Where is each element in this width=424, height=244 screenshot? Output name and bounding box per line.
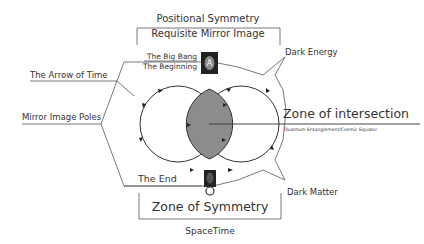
svg-text:A: A — [207, 59, 213, 68]
quantum-entanglement-label: Quantum Entanglement/Cosmic Equator — [284, 127, 377, 132]
spacetime-label: SpaceTime — [185, 226, 235, 236]
zone-of-intersection-label: Zone of intersection — [283, 106, 409, 121]
mirror-image-poles-label: Mirror Image Poles — [22, 112, 102, 122]
the-beginning-label: The Beginning — [142, 62, 197, 71]
omega-card-icon — [204, 170, 216, 195]
dark-energy-label: Dark Energy — [285, 47, 338, 57]
the-end-label: The End — [137, 173, 177, 184]
big-bang-label: The Big Bang — [146, 52, 197, 61]
dark-matter-label: Dark Matter — [287, 187, 338, 197]
zone-of-symmetry-label: Zone of Symmetry — [152, 199, 269, 214]
positional-symmetry-label: Positional Symmetry — [157, 13, 260, 24]
requisite-mirror-image-label: Requisite Mirror Image — [151, 28, 264, 39]
arrow-of-time-label: The Arrow of Time — [29, 70, 108, 80]
alpha-card-icon: A — [201, 52, 218, 74]
cosmic-symmetry-diagram: Positional Symmetry Requisite Mirror Ima… — [0, 0, 424, 244]
